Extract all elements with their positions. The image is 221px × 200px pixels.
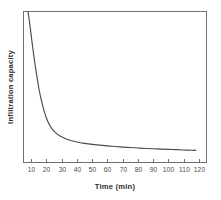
- x-tick-label-70: 70: [120, 166, 128, 173]
- x-axis-tick-labels: 102030405060708090100110120: [28, 166, 206, 173]
- x-tick-label-120: 120: [194, 166, 206, 173]
- x-tick-label-90: 90: [150, 166, 158, 173]
- x-tick-label-110: 110: [179, 166, 190, 173]
- x-tick-label-60: 60: [104, 166, 112, 173]
- x-axis-title: Time (min): [95, 182, 136, 191]
- chart-figure: 102030405060708090100110120 Time (min) I…: [0, 0, 221, 200]
- x-tick-label-100: 100: [163, 166, 175, 173]
- x-tick-label-50: 50: [89, 166, 97, 173]
- infiltration-capacity-curve: [28, 12, 196, 151]
- x-tick-label-20: 20: [43, 166, 51, 173]
- x-tick-label-80: 80: [135, 166, 143, 173]
- y-axis-title: Infiltration capacity: [6, 50, 15, 124]
- x-tick-label-30: 30: [59, 166, 67, 173]
- x-axis-ticks: [32, 159, 200, 163]
- plot-frame: [24, 12, 207, 163]
- x-tick-label-40: 40: [74, 166, 82, 173]
- x-tick-label-10: 10: [28, 166, 36, 173]
- plot-area: 102030405060708090100110120 Time (min) I…: [0, 0, 221, 200]
